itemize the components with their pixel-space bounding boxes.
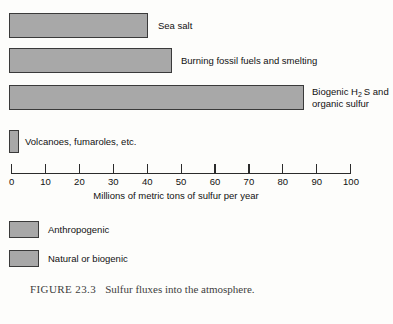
bar-label-volcanoes: Volcanoes, fumaroles, etc. <box>25 136 136 147</box>
axis-tick <box>248 164 249 174</box>
axis-tick-label: 70 <box>244 176 255 187</box>
legend-label-natural-or-biogenic: Natural or biogenic <box>48 253 128 264</box>
bar-row: Biogenic H2S and organic sulfur <box>0 85 393 111</box>
figure-caption-text: Sulfur fluxes into the atmosphere. <box>105 283 254 295</box>
axis-tick <box>282 164 283 174</box>
axis-tick-label: 60 <box>210 176 221 187</box>
bar-volcanoes <box>9 130 19 153</box>
axis-tick-label: 100 <box>343 176 359 187</box>
bar-row: Sea salt <box>0 13 393 39</box>
axis-tick-label: 90 <box>311 176 322 187</box>
figure-caption-number: FIGURE 23.3 <box>30 283 96 295</box>
figure-container: Sea salt Burning fossil fuels and smelti… <box>0 0 393 324</box>
axis-tick <box>316 164 317 174</box>
axis-tick-label: 50 <box>176 176 187 187</box>
axis-tick-label: 30 <box>108 176 119 187</box>
bar-label-biogenic-line2: organic sulfur <box>312 98 369 109</box>
axis-tick-label: 40 <box>142 176 153 187</box>
chart-legend: Anthropogenic Natural or biogenic <box>0 214 393 269</box>
legend-swatch-anthropogenic <box>9 221 39 238</box>
x-axis: 0 10 20 30 40 50 60 70 80 90 100 Million… <box>0 163 393 203</box>
axis-tick-label: 80 <box>278 176 289 187</box>
bar-label-burning-fossil-fuels: Burning fossil fuels and smelting <box>181 55 317 66</box>
axis-tick-label: 0 <box>9 176 14 187</box>
axis-tick <box>79 164 80 174</box>
axis-tick <box>45 164 46 174</box>
axis-tick <box>214 164 215 174</box>
bar-label-biogenic-subscript: 2 <box>358 91 362 98</box>
bar-row: Volcanoes, fumaroles, etc. <box>0 130 393 154</box>
axis-tick <box>147 164 148 174</box>
legend-label-anthropogenic: Anthropogenic <box>48 224 109 235</box>
bar-label-biogenic-h2s: Biogenic H2S and organic sulfur <box>312 86 389 109</box>
axis-tick <box>11 164 12 174</box>
bar-burning-fossil-fuels <box>9 48 172 73</box>
bar-label-sea-salt: Sea salt <box>158 20 192 31</box>
bar-biogenic-h2s <box>9 85 304 110</box>
bar-label-biogenic-text-part2: S and <box>364 86 389 97</box>
axis-tick-label: 20 <box>74 176 85 187</box>
x-axis-title: Millions of metric tons of sulfur per ye… <box>11 190 341 201</box>
figure-caption: FIGURE 23.3Sulfur fluxes into the atmosp… <box>30 283 255 295</box>
axis-tick <box>350 164 351 174</box>
bar-label-biogenic-text-part1: Biogenic H <box>312 86 358 97</box>
axis-tick <box>113 164 114 174</box>
axis-tick <box>181 164 182 174</box>
bar-row: Burning fossil fuels and smelting <box>0 48 393 74</box>
bar-sea-salt <box>9 13 148 38</box>
legend-swatch-natural-or-biogenic <box>9 250 39 267</box>
axis-tick-label: 10 <box>40 176 51 187</box>
